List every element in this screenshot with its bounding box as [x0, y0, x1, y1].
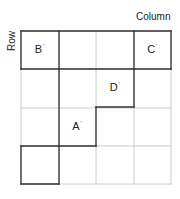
cell-letter: C	[147, 43, 155, 55]
prime-mark: '	[43, 43, 44, 49]
column-axis-label: Column	[136, 12, 170, 22]
row-axis-label: Row	[7, 31, 17, 51]
cell-label-b: B'	[35, 44, 45, 55]
cell-label-a: A'	[72, 121, 82, 132]
grid-diagram	[0, 0, 180, 199]
cell-letter: D	[110, 81, 118, 93]
cell-label-c: C'	[147, 44, 157, 55]
prime-mark: '	[119, 81, 120, 87]
cell-letter: A	[72, 120, 79, 132]
prime-mark: '	[156, 43, 157, 49]
cell-letter: B	[35, 43, 42, 55]
prime-mark: '	[81, 120, 82, 126]
cell-label-d: D'	[110, 82, 120, 93]
